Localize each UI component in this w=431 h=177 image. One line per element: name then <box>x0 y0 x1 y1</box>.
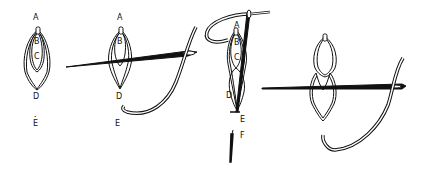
label-d-step-1: D <box>33 93 39 101</box>
label-a-step-3: A <box>234 22 239 30</box>
label-a-step-1: A <box>33 14 38 22</box>
label-e-step-3: E <box>240 116 245 124</box>
step-4-loops <box>310 34 336 121</box>
step-2-thread <box>123 27 196 113</box>
label-c-step-1: C <box>34 53 40 61</box>
stitch-diagram: A B C D • E A B D E A B C D E F <box>0 0 431 177</box>
label-c-step-3: C <box>234 54 240 62</box>
label-e-step-2: E <box>115 120 120 128</box>
diagram-canvas <box>0 0 431 177</box>
step-4-thread <box>323 58 403 150</box>
label-f-step-3: F <box>240 132 245 140</box>
label-d-step-3: D <box>226 92 232 100</box>
label-b-step-1: B <box>34 38 40 46</box>
step-3-needle-below <box>230 134 233 162</box>
label-a-step-2: A <box>117 14 122 22</box>
label-b-step-2: B <box>117 38 123 46</box>
label-b-step-3: B <box>234 39 240 47</box>
label-d-step-2: D <box>116 93 122 101</box>
step-4-needle <box>262 84 406 89</box>
label-e-step-1: E <box>33 120 38 128</box>
